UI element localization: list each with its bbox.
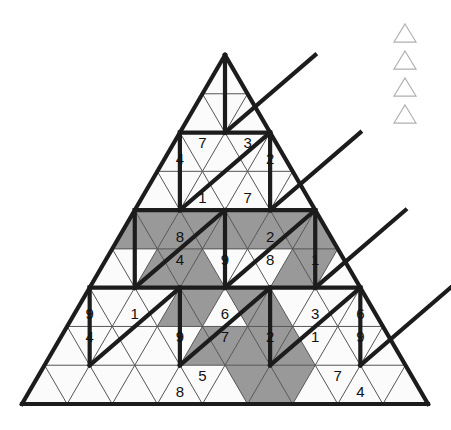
triangle-marker-2-icon — [394, 51, 416, 69]
triangle-marker-3-icon — [394, 78, 416, 96]
triangular-sudoku-grid[interactable]: 473217824981916364972198574 — [0, 0, 451, 430]
triangle-marker-1-icon — [394, 24, 416, 42]
legend-triangle-layer — [394, 24, 416, 123]
puzzle-stage: 473217824981916364972198574 — [0, 0, 451, 430]
triangle-marker-4-icon — [394, 105, 416, 123]
